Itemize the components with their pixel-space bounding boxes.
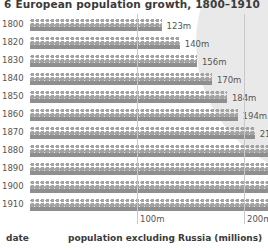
people-icon-strip xyxy=(30,126,255,135)
bar-value-label: 140m xyxy=(185,39,210,49)
bar-value-label: 210m xyxy=(260,129,268,139)
people-icon-strip xyxy=(30,90,227,99)
bar-value-label: 123m xyxy=(167,21,192,31)
pictogram-bar xyxy=(30,104,238,122)
pictogram-bar xyxy=(30,158,268,176)
chart-row: 1870210m xyxy=(0,122,268,140)
row-year-label: 1850 xyxy=(2,91,26,101)
bar-value-label: 194m xyxy=(243,111,268,121)
chart-row: 1910294m xyxy=(0,194,268,212)
people-icon-strip xyxy=(30,162,268,171)
axis-label-population: population excluding Russia (millions) xyxy=(68,233,262,243)
bar-value-label: 156m xyxy=(202,57,227,67)
chart-row: 1840170m xyxy=(0,68,268,86)
row-year-label: 1870 xyxy=(2,127,26,137)
pictogram-bar xyxy=(30,140,268,158)
pictogram-bar xyxy=(30,32,180,50)
people-icon-strip xyxy=(30,18,162,27)
bar-baseline xyxy=(30,27,162,31)
people-icon-strip xyxy=(30,144,268,153)
pictogram-bar xyxy=(30,194,268,212)
bar-baseline xyxy=(30,45,180,49)
bar-baseline xyxy=(30,135,255,139)
pictogram-bar xyxy=(30,86,227,104)
pictogram-bar xyxy=(30,122,255,140)
pictogram-bar xyxy=(30,68,212,86)
row-year-label: 1840 xyxy=(2,73,26,83)
bar-baseline xyxy=(30,207,268,211)
bar-baseline xyxy=(30,63,197,67)
axis-label-date: date xyxy=(6,233,29,243)
chart-row: 1880225m xyxy=(0,140,268,158)
bar-value-label: 170m xyxy=(217,75,242,85)
row-year-label: 1860 xyxy=(2,109,26,119)
chart-row: 1820140m xyxy=(0,32,268,50)
row-year-label: 1820 xyxy=(2,37,26,47)
chart-row: 1900267m xyxy=(0,176,268,194)
gridline-100m xyxy=(137,14,138,224)
chart-title-text: European population growth, 1800–1910 xyxy=(15,0,259,10)
bar-baseline xyxy=(30,99,227,103)
plot-area: 1800123m1820140m1830156m1840170m1850184m… xyxy=(0,14,268,216)
row-year-label: 1830 xyxy=(2,55,26,65)
x-tick-label: 200m xyxy=(247,214,268,224)
chart-row: 1830156m xyxy=(0,50,268,68)
pictogram-chart: 6European population growth, 1800–1910 1… xyxy=(0,0,268,251)
people-icon-strip xyxy=(30,198,268,207)
chart-title-number: 6 xyxy=(4,0,11,10)
chart-row: 1890244m xyxy=(0,158,268,176)
chart-footer: date population excluding Russia (millio… xyxy=(0,233,268,247)
chart-row: 1850184m xyxy=(0,86,268,104)
chart-row: 1800123m xyxy=(0,14,268,32)
people-icon-strip xyxy=(30,108,238,117)
chart-title: 6European population growth, 1800–1910 xyxy=(4,0,260,10)
row-year-label: 1900 xyxy=(2,181,26,191)
gridline-200m xyxy=(244,14,245,224)
pictogram-bar xyxy=(30,50,197,68)
x-tick-label: 100m xyxy=(140,214,165,224)
people-icon-strip xyxy=(30,54,197,63)
bar-baseline xyxy=(30,153,268,157)
people-icon-strip xyxy=(30,72,212,81)
people-icon-strip xyxy=(30,180,268,189)
row-year-label: 1890 xyxy=(2,163,26,173)
chart-row: 1860194m xyxy=(0,104,268,122)
pictogram-bar xyxy=(30,176,268,194)
bar-baseline xyxy=(30,189,268,193)
bar-baseline xyxy=(30,171,268,175)
pictogram-bar xyxy=(30,14,162,32)
bar-baseline xyxy=(30,117,238,121)
bar-baseline xyxy=(30,81,212,85)
people-icon-strip xyxy=(30,36,180,45)
row-year-label: 1800 xyxy=(2,19,26,29)
row-year-label: 1910 xyxy=(2,199,26,209)
row-year-label: 1880 xyxy=(2,145,26,155)
